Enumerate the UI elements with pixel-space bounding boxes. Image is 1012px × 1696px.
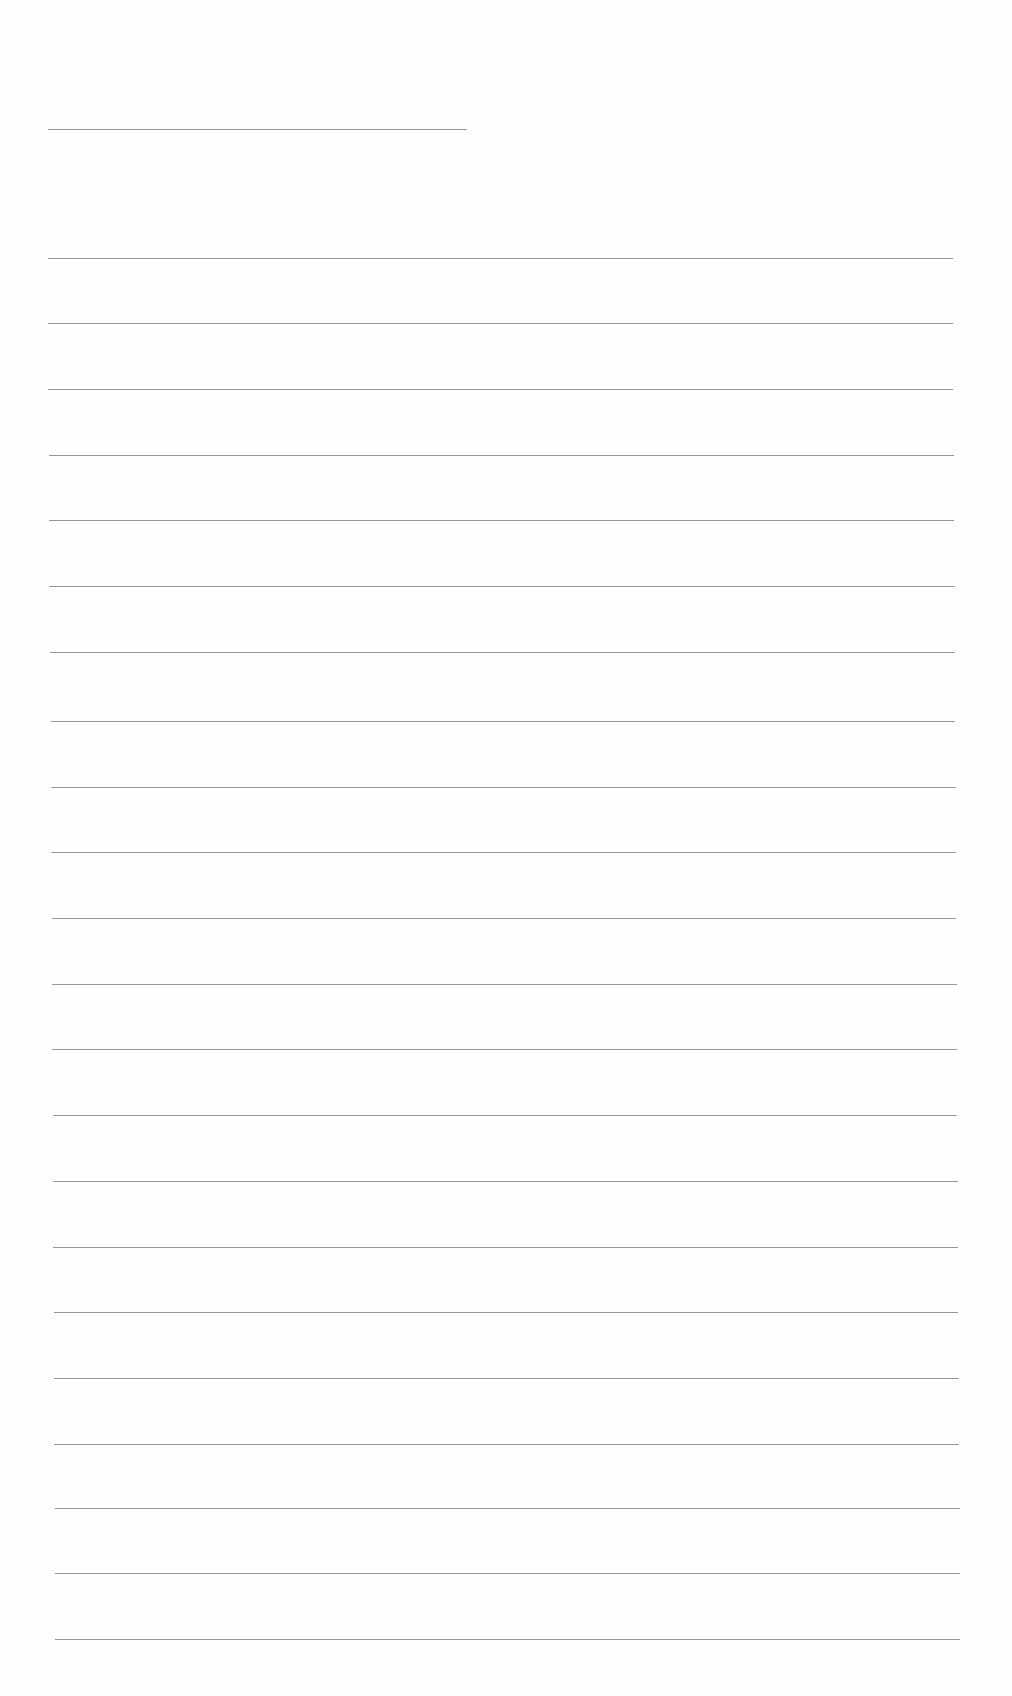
ruled-line: [51, 787, 956, 789]
ruled-line: [49, 586, 955, 588]
ruled-line: [50, 652, 955, 654]
ruled-line: [55, 1508, 960, 1510]
ruled-line: [54, 1312, 958, 1314]
ruled-line: [51, 852, 956, 854]
ruled-line: [51, 721, 955, 723]
ruled-line: [52, 1049, 957, 1051]
ruled-line: [53, 1247, 958, 1249]
header-line: [48, 129, 467, 131]
lined-paper-page: [0, 0, 1012, 1696]
ruled-line: [55, 1573, 960, 1575]
ruled-line: [55, 1639, 960, 1641]
ruled-line: [48, 258, 953, 260]
ruled-line: [52, 918, 956, 920]
ruled-line: [53, 1181, 958, 1183]
ruled-line: [52, 984, 957, 986]
ruled-line: [53, 1115, 957, 1117]
ruled-line: [54, 1378, 959, 1380]
ruled-line: [54, 1444, 959, 1446]
ruled-line: [49, 455, 954, 457]
ruled-line: [48, 323, 953, 325]
ruled-line: [48, 389, 953, 391]
ruled-line: [49, 520, 954, 522]
